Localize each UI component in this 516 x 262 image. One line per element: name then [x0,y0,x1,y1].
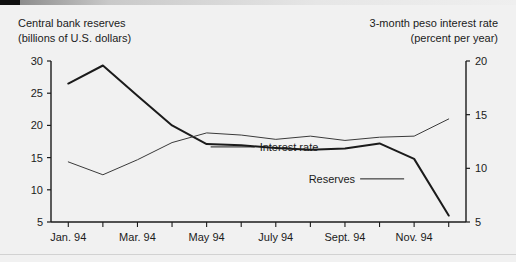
right-axis-tick-label: 20 [475,55,487,67]
left-axis-tick-label: 15 [31,152,43,164]
x-axis-tick-label: July 94 [258,231,293,243]
left-axis-tick-label: 10 [31,184,43,196]
x-axis: Jan. 94Mar. 94May 94July 94Sept. 94Nov. … [50,222,466,243]
interest-rate-annotation-label: Interest rate [260,141,319,153]
bottom-rule [0,254,516,255]
left-axis-tick-label: 20 [31,119,43,131]
series-lines [68,66,448,216]
right-axis-tick-label: 15 [475,109,487,121]
figure-panel: Central bank reserves (billions of U.S. … [0,0,516,262]
x-axis-tick-label: Jan. 94 [50,231,86,243]
series-line-reserves [68,66,448,216]
left-axis-tick-label: 30 [31,55,43,67]
right-axis: 5101520 [466,55,487,228]
right-axis-tick-label: 5 [475,216,481,228]
left-axis-tick-label: 5 [37,216,43,228]
x-axis-tick-label: Nov. 94 [396,231,433,243]
left-axis: 51015202530 [31,55,51,228]
left-axis-tick-label: 25 [31,87,43,99]
x-axis-tick-label: Mar. 94 [119,231,156,243]
right-axis-tick-label: 10 [475,162,487,174]
x-axis-tick-label: May 94 [189,231,225,243]
reserves-annotation-label: Reserves [309,173,356,185]
x-axis-tick-label: Sept. 94 [324,231,365,243]
series-annotations: Interest rateReserves [211,141,405,185]
chart-plot: 51015202530 5101520 Jan. 94Mar. 94May 94… [0,0,516,262]
